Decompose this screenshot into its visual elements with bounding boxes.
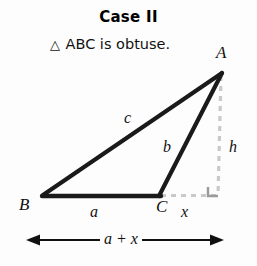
geometry-figure: Case II △ ABC is obtuse. A B C c b a x h… <box>0 0 257 266</box>
dimension-arrow-head-right <box>210 235 224 246</box>
triangle-diagram <box>0 0 257 266</box>
side-label-b: b <box>163 139 171 155</box>
vertex-label-a: A <box>216 44 226 61</box>
segment-label-x: x <box>181 204 188 220</box>
side-label-c: c <box>124 110 131 126</box>
dimension-arrow-head-left <box>26 235 40 246</box>
side-label-a: a <box>90 204 98 220</box>
vertex-label-b: B <box>19 196 29 213</box>
base-sum-label: a + x <box>100 230 142 248</box>
height-label-h: h <box>229 139 237 155</box>
side-b-line <box>159 73 222 196</box>
side-c-line <box>43 73 222 195</box>
vertex-label-c: C <box>156 198 167 215</box>
altitude-dashed-line <box>218 76 221 196</box>
